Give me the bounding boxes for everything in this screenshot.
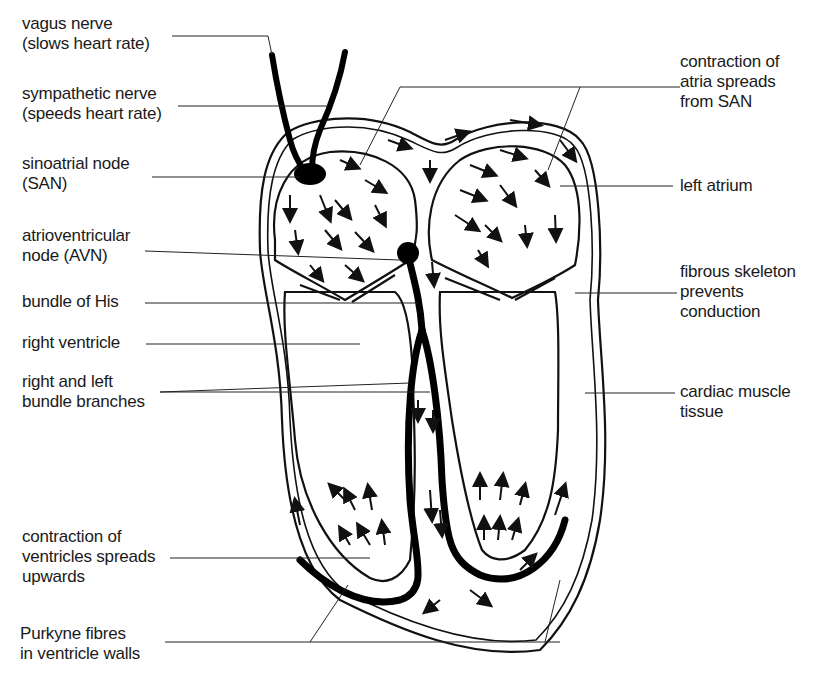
label-bundle-of-his: bundle of His [22,292,119,312]
label-fibrous-skeleton: fibrous skeletonpreventsconduction [680,262,796,322]
label-line: in ventricle walls [20,644,140,664]
label-line: contraction of [22,527,155,547]
left-atrium-chamber [429,146,580,298]
label-line: (slows heart rate) [22,34,150,54]
vagus-nerve [272,55,305,172]
right-ventricle-chamber [284,292,414,581]
label-purkyne-fibres: Purkyne fibresin ventricle walls [20,624,140,664]
label-line: fibrous skeleton [680,262,796,282]
label-line: sinoatrial node [22,154,130,174]
label-atrioventricular-node: atrioventricularnode (AVN) [22,226,130,266]
heart-conduction-diagram: vagus nerve(slows heart rate) sympatheti… [0,0,819,688]
label-sinoatrial-node: sinoatrial node(SAN) [22,154,130,194]
sinoatrial-node [294,163,326,185]
label-line: bundle of His [22,292,119,312]
ventricular-arrows [295,400,565,612]
label-bundle-branches: right and leftbundle branches [22,372,145,412]
label-cardiac-muscle: cardiac muscletissue [680,382,791,422]
label-line: atria spreads [680,72,779,92]
label-line: conduction [680,302,796,322]
label-line: right ventricle [22,333,120,353]
label-line: (SAN) [22,174,130,194]
label-line: Purkyne fibres [20,624,140,644]
label-atria-contraction: contraction ofatria spreadsfrom SAN [680,52,779,112]
label-line: (speeds heart rate) [22,104,162,124]
right-bundle-branch [300,330,422,602]
label-line: ventricles spreads [22,547,155,567]
label-ventricle-contraction: contraction ofventricles spreadsupwards [22,527,155,587]
label-right-ventricle: right ventricle [22,333,120,353]
label-line: upwards [22,567,155,587]
left-bundle-branch [422,330,565,579]
label-line: cardiac muscle [680,382,791,402]
label-line: contraction of [680,52,779,72]
label-line: prevents [680,282,796,302]
bundle-of-his [408,255,422,330]
label-line: left atrium [680,176,752,196]
label-line: atrioventricular [22,226,130,246]
label-line: from SAN [680,92,779,112]
label-line: sympathetic nerve [22,84,162,104]
label-line: bundle branches [22,392,145,412]
label-vagus-nerve: vagus nerve(slows heart rate) [22,14,150,54]
mitral-valve [445,278,555,300]
label-sympathetic-nerve: sympathetic nerve(speeds heart rate) [22,84,162,124]
label-line: node (AVN) [22,246,130,266]
label-line: right and left [22,372,145,392]
label-line: tissue [680,402,791,422]
label-left-atrium: left atrium [680,176,752,196]
label-line: vagus nerve [22,14,150,34]
